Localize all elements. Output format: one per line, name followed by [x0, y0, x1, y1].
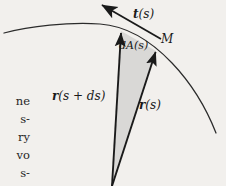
margin-text-line: ne	[0, 92, 30, 110]
margin-text-line: vo	[0, 146, 30, 164]
swept-area-symbol: dA	[119, 39, 134, 52]
radius-current-argument: (s)	[145, 98, 161, 112]
margin-text-line: s-	[0, 110, 30, 128]
position-vector-r-s-plus-ds-label: r(s + ds)	[52, 90, 105, 102]
swept-area-label: dA(s)	[119, 40, 148, 51]
trajectory-curve	[4, 23, 216, 133]
position-vector-r-s-label: r(s)	[139, 99, 161, 111]
tangent-vector-label: t(s)	[133, 8, 154, 20]
margin-text-line: s-	[0, 164, 30, 182]
margin-text-column: ne s- ry vo s-	[0, 92, 34, 182]
margin-text-line: ry	[0, 128, 30, 146]
tangent-vector-argument: (s)	[139, 7, 155, 21]
figure-container: t(s) dA(s) M r(s + ds) r(s) ne s- ry vo …	[0, 0, 226, 186]
swept-area-argument: (s)	[134, 39, 148, 52]
point-m-label: M	[161, 33, 173, 45]
radius-next-argument: (s + ds)	[58, 89, 105, 103]
